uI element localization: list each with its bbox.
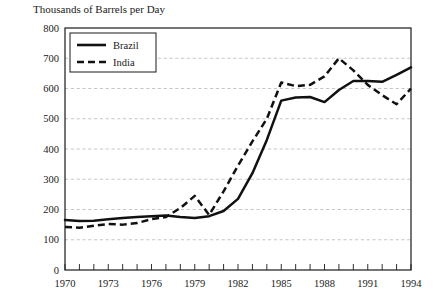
tickmarks-group	[65, 264, 411, 270]
y-axis-tick-label: 400	[43, 144, 59, 155]
gridlines-group	[65, 58, 411, 240]
series-line-brazil	[65, 67, 411, 221]
x-axis-tick-label: 1970	[55, 278, 76, 289]
y-axis-tick-label: 600	[43, 83, 59, 94]
legend-label-brazil: Brazil	[113, 40, 139, 51]
x-axis-tick-label: 1991	[357, 278, 378, 289]
y-axis-tick-label: 300	[43, 174, 59, 185]
line-chart: 0100200300400500600700800 19701973197619…	[0, 0, 441, 296]
y-axis-tick-label: 700	[43, 53, 59, 64]
x-axis-tick-label: 1982	[228, 278, 249, 289]
chart-container: Thousands of Barrels per Day 01002003004…	[0, 0, 441, 296]
chart-legend: BrazilIndia	[70, 33, 156, 72]
x-axis-labels-group: 197019731976197919821985198819911994	[55, 278, 423, 289]
x-axis-tick-label: 1973	[98, 278, 119, 289]
data-series-group	[65, 58, 411, 227]
x-axis-tick-label: 1976	[141, 278, 162, 289]
x-axis-tick-label: 1985	[271, 278, 292, 289]
x-axis-tick-label: 1988	[314, 278, 335, 289]
x-axis-tick-label: 1979	[184, 278, 205, 289]
y-axis-tick-label: 500	[43, 113, 59, 124]
x-axis-tick-label: 1994	[401, 278, 423, 289]
y-axis-labels-group: 0100200300400500600700800	[43, 23, 59, 276]
y-axis-tick-label: 100	[43, 234, 59, 245]
y-axis-tick-label: 800	[43, 23, 59, 34]
y-axis-tick-label: 0	[54, 265, 59, 276]
series-line-india	[65, 58, 411, 227]
legend-label-india: India	[113, 57, 135, 68]
y-axis-tick-label: 200	[43, 204, 59, 215]
